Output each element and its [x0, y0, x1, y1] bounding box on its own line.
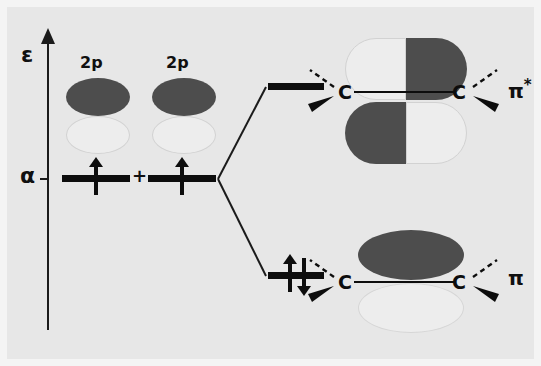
pi-substituent-bonds — [0, 0, 541, 366]
pi-label: π — [508, 268, 524, 288]
dashed-bond-left-up — [310, 260, 334, 277]
wedge-bond-right-down — [473, 286, 499, 302]
dashed-bond-right-up — [473, 260, 497, 277]
wedge-bond-left-down — [308, 286, 334, 302]
mo-diagram-figure: ε α 2p 2p + C C — [0, 0, 541, 366]
